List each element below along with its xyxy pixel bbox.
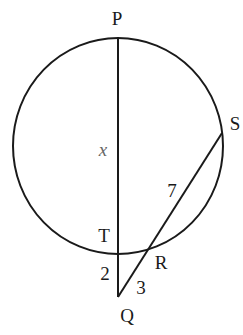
point-label-q: Q	[120, 305, 134, 326]
segment-label-tq: 2	[100, 263, 110, 284]
secant-sq	[118, 133, 222, 297]
point-label-s: S	[230, 113, 241, 134]
secant-diagram: P S T R Q x 7 2 3	[0, 0, 243, 335]
segment-label-rs: 7	[167, 180, 177, 201]
segment-label-rq: 3	[136, 277, 146, 298]
point-label-t: T	[98, 225, 110, 246]
point-label-r: R	[155, 252, 168, 273]
segment-label-pt: x	[98, 139, 108, 160]
point-label-p: P	[112, 8, 123, 29]
